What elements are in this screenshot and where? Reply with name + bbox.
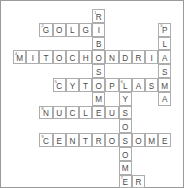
- crossword-puzzle-frame: 1R2GOLGI3PBL4MITOCHONDRIASS5CYTOP6LASMMY…: [0, 0, 184, 188]
- cell-letter: R: [133, 178, 144, 187]
- cell-letter: A: [159, 54, 170, 63]
- crossword-cell[interactable]: E: [92, 106, 105, 120]
- crossword-cell[interactable]: O: [119, 147, 132, 161]
- cell-letter: O: [120, 151, 131, 160]
- cell-letter: N: [106, 54, 117, 63]
- cell-letter: Y: [120, 95, 131, 104]
- crossword-cell[interactable]: S: [158, 64, 171, 78]
- crossword-cell[interactable]: S: [119, 133, 132, 147]
- crossword-cell[interactable]: O: [92, 50, 105, 64]
- crossword-cell[interactable]: S: [145, 78, 158, 92]
- cell-letter: O: [54, 26, 65, 35]
- crossword-cell[interactable]: M: [92, 92, 105, 106]
- crossword-cell[interactable]: 4M: [13, 50, 26, 64]
- cell-letter: M: [93, 95, 104, 104]
- crossword-cell[interactable]: B: [92, 37, 105, 51]
- cell-letter: U: [106, 109, 117, 118]
- crossword-cell[interactable]: O: [119, 119, 132, 133]
- cell-letter: S: [120, 109, 131, 118]
- crossword-cell[interactable]: R: [132, 175, 145, 188]
- crossword-cell[interactable]: R: [132, 50, 145, 64]
- crossword-cell[interactable]: D: [119, 50, 132, 64]
- cell-letter: L: [67, 26, 78, 35]
- cell-letter: U: [54, 109, 65, 118]
- crossword-cell[interactable]: C: [66, 50, 79, 64]
- cell-letter: I: [27, 54, 38, 63]
- cell-letter: S: [120, 137, 131, 146]
- crossword-cell[interactable]: U: [105, 106, 118, 120]
- cell-letter: S: [146, 82, 157, 91]
- cell-letter: P: [159, 26, 170, 35]
- cell-letter: L: [80, 109, 91, 118]
- crossword-cell[interactable]: M: [145, 133, 158, 147]
- crossword-cell[interactable]: S: [92, 64, 105, 78]
- crossword-cell[interactable]: U: [53, 106, 66, 120]
- cell-letter: B: [93, 40, 104, 49]
- crossword-cell[interactable]: 2G: [39, 23, 52, 37]
- crossword-cell[interactable]: O: [105, 133, 118, 147]
- crossword-cell[interactable]: A: [158, 92, 171, 106]
- crossword-cell[interactable]: C: [66, 106, 79, 120]
- crossword-cell[interactable]: A: [132, 78, 145, 92]
- crossword-cell[interactable]: 6L: [119, 78, 132, 92]
- cell-letter: S: [159, 68, 170, 77]
- crossword-cell[interactable]: E: [53, 133, 66, 147]
- cell-letter: E: [54, 137, 65, 146]
- cell-letter: E: [159, 137, 170, 146]
- cell-letter: O: [54, 54, 65, 63]
- crossword-cell[interactable]: S: [119, 106, 132, 120]
- cell-letter: O: [93, 82, 104, 91]
- crossword-cell[interactable]: N: [66, 133, 79, 147]
- crossword-cell[interactable]: L: [66, 23, 79, 37]
- crossword-cell[interactable]: 9C: [39, 133, 52, 147]
- cell-letter: R: [93, 137, 104, 146]
- crossword-cell[interactable]: 7E: [119, 175, 132, 188]
- cell-letter: T: [40, 54, 51, 63]
- crossword-cell[interactable]: O: [132, 133, 145, 147]
- cell-letter: I: [93, 26, 104, 35]
- cell-letter: T: [80, 82, 91, 91]
- crossword-cell[interactable]: T: [79, 78, 92, 92]
- crossword-cell[interactable]: 3P: [158, 23, 171, 37]
- cell-letter: H: [80, 54, 91, 63]
- crossword-cell[interactable]: I: [92, 23, 105, 37]
- crossword-cell[interactable]: Y: [66, 78, 79, 92]
- crossword-cell[interactable]: Y: [119, 92, 132, 106]
- cell-letter: G: [40, 26, 51, 35]
- crossword-cell[interactable]: A: [158, 50, 171, 64]
- crossword-cell[interactable]: M: [158, 78, 171, 92]
- cell-letter: O: [93, 54, 104, 63]
- cell-letter: M: [146, 137, 157, 146]
- cell-letter: A: [159, 95, 170, 104]
- crossword-cell[interactable]: O: [53, 23, 66, 37]
- cell-letter: M: [120, 164, 131, 173]
- crossword-cell[interactable]: T: [39, 50, 52, 64]
- cell-letter: N: [40, 109, 51, 118]
- cell-letter: C: [54, 82, 65, 91]
- crossword-cell[interactable]: T: [79, 133, 92, 147]
- crossword-cell[interactable]: O: [92, 78, 105, 92]
- crossword-cell[interactable]: L: [79, 106, 92, 120]
- cell-letter: O: [133, 137, 144, 146]
- cell-letter: E: [93, 109, 104, 118]
- cell-letter: O: [106, 137, 117, 146]
- crossword-cell[interactable]: 1R: [92, 9, 105, 23]
- cell-letter: M: [14, 54, 25, 63]
- crossword-cell[interactable]: M: [119, 161, 132, 175]
- crossword-cell[interactable]: N: [105, 50, 118, 64]
- crossword-cell[interactable]: I: [145, 50, 158, 64]
- crossword-cell[interactable]: 8N: [39, 106, 52, 120]
- crossword-cell[interactable]: G: [79, 23, 92, 37]
- cell-letter: R: [93, 13, 104, 22]
- crossword-cell[interactable]: O: [53, 50, 66, 64]
- crossword-cell[interactable]: 5C: [53, 78, 66, 92]
- crossword-cell[interactable]: L: [158, 37, 171, 51]
- crossword-cell[interactable]: E: [158, 133, 171, 147]
- cell-letter: R: [133, 54, 144, 63]
- crossword-cell[interactable]: P: [105, 78, 118, 92]
- crossword-cell[interactable]: R: [92, 133, 105, 147]
- cell-letter: L: [159, 40, 170, 49]
- crossword-cell[interactable]: H: [79, 50, 92, 64]
- cell-letter: C: [67, 109, 78, 118]
- crossword-cell[interactable]: I: [26, 50, 39, 64]
